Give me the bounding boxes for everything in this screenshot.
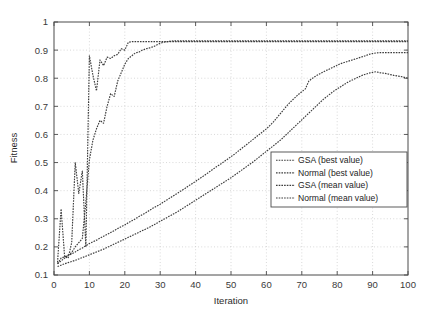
y-tick-label: 0.3 — [35, 213, 48, 224]
x-axis-label: Iteration — [214, 295, 248, 306]
legend-label-1: GSA (best value) — [298, 155, 363, 165]
x-tick-label: 20 — [120, 279, 131, 290]
y-tick-label: 0.5 — [35, 157, 48, 168]
x-axis-tick-labels: 0102030405060708090100 — [51, 279, 416, 290]
y-axis-label: Fitness — [8, 132, 19, 163]
chart-legend: GSA (best value)Normal (best value)GSA (… — [271, 152, 407, 207]
x-tick-label: 90 — [367, 279, 378, 290]
fitness-vs-iteration-chart: 0102030405060708090100 0.10.20.30.40.50.… — [0, 0, 435, 319]
x-tick-label: 30 — [155, 279, 166, 290]
y-tick-label: 0.8 — [35, 73, 48, 84]
x-tick-label: 50 — [226, 279, 237, 290]
x-tick-label: 0 — [51, 279, 56, 290]
y-tick-label: 0.4 — [35, 185, 48, 196]
y-axis-tick-labels: 0.10.20.30.40.50.60.70.80.91 — [35, 16, 48, 280]
x-tick-label: 40 — [190, 279, 201, 290]
x-tick-label: 60 — [261, 279, 272, 290]
x-tick-label: 80 — [332, 279, 343, 290]
y-tick-label: 1 — [43, 16, 48, 27]
x-tick-label: 10 — [84, 279, 95, 290]
y-tick-label: 0.7 — [35, 101, 48, 112]
legend-label-4: Normal (mean value) — [298, 193, 378, 203]
legend-label-2: Normal (best value) — [298, 168, 373, 178]
legend-label-3: GSA (mean value) — [298, 180, 368, 190]
y-tick-label: 0.1 — [35, 269, 48, 280]
y-tick-label: 0.6 — [35, 129, 48, 140]
chart-figure: 0102030405060708090100 0.10.20.30.40.50.… — [0, 0, 435, 319]
x-tick-label: 100 — [400, 279, 416, 290]
y-tick-label: 0.9 — [35, 45, 48, 56]
x-tick-label: 70 — [297, 279, 308, 290]
y-tick-label: 0.2 — [35, 241, 48, 252]
